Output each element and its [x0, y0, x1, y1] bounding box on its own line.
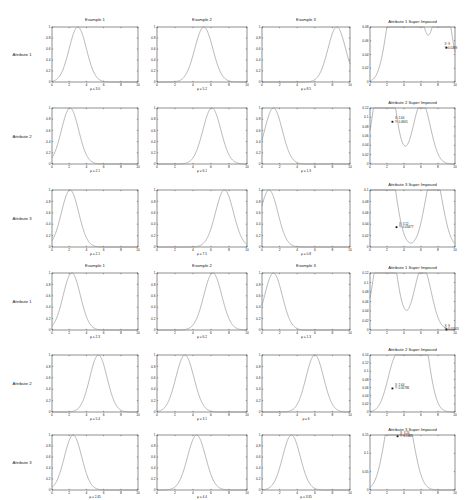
x-tick-label: 4 — [403, 331, 405, 335]
subplot: 024681000.20.40.60.81μ = 2.3 — [46, 271, 140, 339]
x-axis-label: μ = 2.3 — [90, 335, 100, 339]
datatip-label: Y: 0.0499 — [445, 46, 458, 50]
x-tick-label: 4 — [192, 331, 194, 335]
y-tick-label: 0.8 — [256, 365, 261, 369]
y-tick-label: 0.8 — [256, 36, 261, 40]
x-tick-label: 6 — [420, 413, 422, 417]
axes-box — [262, 355, 350, 412]
x-tick-label: 4 — [403, 248, 405, 252]
datatip-marker[interactable] — [392, 388, 394, 390]
subplot: 024681000.20.40.60.81μ = 3.35 — [256, 433, 352, 499]
x-tick-label: 2 — [386, 491, 388, 495]
y-tick-label: 1 — [259, 433, 261, 437]
x-tick-label: 4 — [403, 83, 405, 87]
y-tick-label: 0.6 — [256, 47, 261, 51]
x-tick-label: 8 — [228, 83, 230, 87]
x-tick-label: 2 — [174, 491, 176, 495]
x-tick-label: 10 — [453, 413, 457, 417]
x-tick-label: 8 — [228, 413, 230, 417]
x-tick-label: 4 — [192, 491, 194, 495]
y-tick-label: 0.8 — [256, 283, 261, 287]
y-tick-label: 0.05 — [362, 470, 368, 474]
y-tick-label: 0.6 — [256, 211, 261, 215]
y-tick-label: 0 — [367, 328, 369, 332]
y-tick-label: 0.12 — [362, 271, 368, 275]
subplot: 024681000.20.40.60.81μ = 1.3 — [256, 106, 352, 173]
y-tick-label: 0.8 — [151, 117, 156, 121]
subplot: 024681000.050.10.15Attribute 3 Super Imp… — [362, 427, 457, 495]
x-tick-label: 8 — [332, 331, 334, 335]
x-tick-label: 8 — [437, 491, 439, 495]
x-tick-label: 2 — [68, 491, 70, 495]
x-axis-label: μ = 3.35 — [300, 495, 312, 499]
x-tick-label: 6 — [420, 491, 422, 495]
y-tick-label: 0.2 — [151, 69, 156, 73]
x-tick-label: 8 — [437, 248, 439, 252]
y-tick-label: 0.12 — [362, 361, 368, 365]
x-axis-label: μ = 2.45 — [89, 495, 101, 499]
axes-box — [370, 273, 455, 330]
x-tick-label: 0 — [156, 331, 158, 335]
x-tick-label: 0 — [261, 83, 263, 87]
x-tick-label: 0 — [261, 491, 263, 495]
y-tick-label: 0 — [367, 162, 369, 166]
subplot: 024681000.20.40.60.81μ = 2.1 — [46, 188, 140, 256]
y-tick-label: 0 — [259, 80, 261, 84]
subplot: 024681000.20.40.60.81μ = 2.1 — [46, 106, 140, 173]
x-tick-label: 6 — [103, 331, 105, 335]
x-tick-label: 10 — [348, 83, 352, 87]
x-tick-label: 4 — [403, 413, 405, 417]
y-tick-label: 0 — [154, 410, 156, 414]
y-tick-label: 1 — [154, 433, 156, 437]
y-tick-label: 0.4 — [151, 387, 156, 391]
x-tick-label: 4 — [403, 491, 405, 495]
y-tick-label: 0.2 — [256, 399, 261, 403]
axes-box — [157, 190, 247, 247]
datatip-label: Y: 0.0905 — [395, 120, 408, 124]
y-tick-label: 0 — [367, 488, 369, 492]
x-tick-label: 10 — [453, 331, 457, 335]
datatip-marker[interactable] — [396, 226, 398, 228]
subplot: 024681000.20.40.60.81μ = 6 — [256, 353, 352, 421]
y-tick-label: 1 — [259, 25, 261, 29]
subplot: 024681000.20.40.60.81μ = 7.5 — [151, 188, 249, 256]
y-tick-label: 0.2 — [256, 477, 261, 481]
datatip-marker[interactable] — [397, 435, 399, 437]
subplot: 024681000.20.40.60.81μ = 5.4 — [46, 353, 140, 421]
row-label: Attribute 2 — [12, 134, 32, 139]
x-tick-label: 6 — [314, 248, 316, 252]
y-tick-label: 0.06 — [362, 134, 368, 138]
x-tick-label: 0 — [369, 331, 371, 335]
y-tick-label: 0.15 — [362, 433, 368, 437]
datatip-marker[interactable] — [392, 121, 394, 123]
y-tick-label: 0.6 — [46, 129, 51, 133]
x-tick-label: 6 — [210, 83, 212, 87]
y-tick-label: 0.04 — [362, 394, 368, 398]
subplot: 024681000.020.040.060.080.10.12Attribute… — [362, 100, 457, 169]
y-tick-label: 0.6 — [151, 47, 156, 51]
y-tick-label: 0 — [49, 245, 51, 249]
x-tick-label: 8 — [228, 165, 230, 169]
y-tick-label: 1 — [154, 271, 156, 275]
datatip-label: Y: 0.05786 — [395, 386, 410, 390]
y-tick-label: 0.6 — [46, 455, 51, 459]
y-tick-label: 0.6 — [151, 294, 156, 298]
x-tick-label: 0 — [369, 491, 371, 495]
y-tick-label: 0.4 — [46, 58, 51, 62]
x-tick-label: 2 — [386, 331, 388, 335]
y-tick-label: 0.04 — [362, 309, 368, 313]
y-tick-label: 0.8 — [151, 365, 156, 369]
x-tick-label: 10 — [136, 165, 140, 169]
x-tick-label: 2 — [174, 413, 176, 417]
x-tick-label: 6 — [103, 83, 105, 87]
subplot: 024681000.20.40.60.81μ = 4.4 — [151, 433, 249, 499]
x-tick-label: 2 — [386, 83, 388, 87]
subplot: 024681000.020.040.060.080.10.120.14Attri… — [362, 347, 457, 417]
y-tick-label: 0.2 — [46, 69, 51, 73]
column-title: Example 3 — [296, 263, 316, 268]
axes-box — [262, 435, 350, 490]
subplot: 024681000.20.40.60.81μ = 8.5 — [256, 25, 352, 91]
x-tick-label: 0 — [51, 165, 53, 169]
x-axis-label: μ = 8.5 — [301, 87, 311, 91]
y-tick-label: 1 — [259, 353, 261, 357]
